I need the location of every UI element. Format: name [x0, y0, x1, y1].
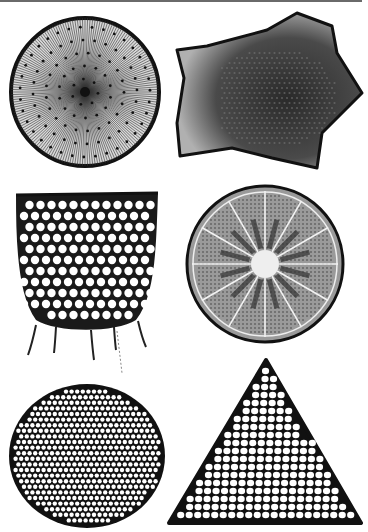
triangular-valve-diatom	[163, 355, 368, 530]
radial-disc-diatom	[4, 15, 166, 170]
top-rule	[0, 0, 362, 2]
rayed-disc-diatom	[179, 184, 351, 349]
porous-disc-diatom	[6, 380, 168, 530]
basket-frustule-diatom	[6, 185, 166, 375]
star-valve-diatom	[172, 8, 368, 178]
